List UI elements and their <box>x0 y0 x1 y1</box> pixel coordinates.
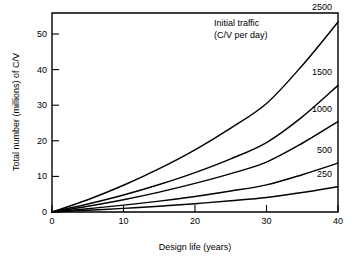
series-label-2500: 2500 <box>312 2 332 12</box>
y-tick-label-10: 10 <box>37 171 47 181</box>
x-tick-label-40: 40 <box>333 216 343 226</box>
axis-frame-path <box>52 13 338 212</box>
x-axis-tick-labels: 0 10 20 30 40 <box>49 216 343 226</box>
y-tick-label-40: 40 <box>37 65 47 75</box>
legend-heading: Initial traffic (C/V per day) <box>214 18 268 40</box>
legend-title-line2: (C/V per day) <box>214 30 268 40</box>
plot-frame <box>52 13 338 212</box>
y-axis-tick-labels: 0 10 20 30 40 50 <box>37 29 47 217</box>
x-tick-label-10: 10 <box>118 216 128 226</box>
y-axis-ticks <box>52 34 59 212</box>
legend-title-line1: Initial traffic <box>214 18 260 28</box>
x-axis-title: Design life (years) <box>159 242 232 252</box>
x-tick-label-20: 20 <box>190 216 200 226</box>
y-axis-title: Total number (millions) of C/V <box>11 53 21 171</box>
chart-plot-area: 0 10 20 30 40 50 0 10 20 30 40 Design li… <box>0 0 356 264</box>
data-curves <box>52 22 338 212</box>
y-tick-label-0: 0 <box>42 207 47 217</box>
series-label-1500: 1500 <box>312 67 332 77</box>
series-label-250: 250 <box>317 169 332 179</box>
curve-series-1000 <box>52 122 338 212</box>
series-label-500: 500 <box>317 145 332 155</box>
y-tick-label-30: 30 <box>37 100 47 110</box>
y-tick-label-50: 50 <box>37 29 47 39</box>
chart-container: 0 10 20 30 40 50 0 10 20 30 40 Design li… <box>0 0 356 264</box>
y-tick-label-20: 20 <box>37 136 47 146</box>
series-label-1000: 1000 <box>312 104 332 114</box>
series-labels: 250015001000500250 <box>312 2 332 179</box>
x-tick-label-30: 30 <box>261 216 271 226</box>
x-tick-label-0: 0 <box>49 216 54 226</box>
